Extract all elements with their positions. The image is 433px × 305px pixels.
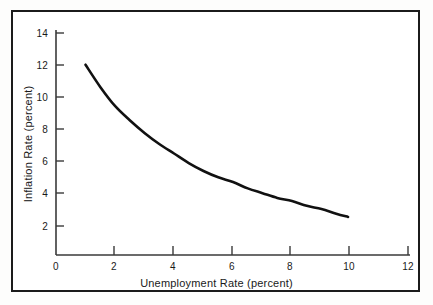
x-tick-label-6: 6 — [229, 261, 235, 272]
x-tick-label-4: 4 — [170, 261, 176, 272]
x-tick-label-12: 12 — [402, 261, 414, 272]
x-tick-label-0: 0 — [53, 261, 59, 272]
x-tick-label-10: 10 — [343, 261, 355, 272]
y-axis-title: Inflation Rate (percent) — [22, 54, 34, 234]
x-tick-label-8: 8 — [287, 261, 293, 272]
phillips-curve-figure: 14 12 10 8 6 4 2 0 2 4 6 8 10 12 Unemplo… — [0, 0, 433, 305]
figure-border-frame — [11, 10, 420, 292]
x-tick-label-2: 2 — [111, 261, 117, 272]
x-axis-title: Unemployment Rate (percent) — [0, 277, 433, 289]
y-tick-label-14: 14 — [26, 28, 48, 39]
